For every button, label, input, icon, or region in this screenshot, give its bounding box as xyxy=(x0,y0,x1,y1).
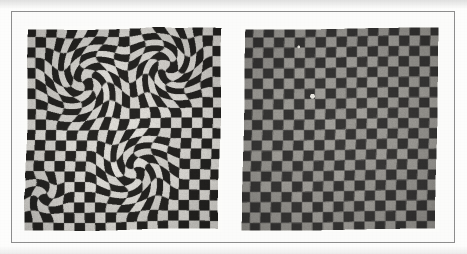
left-checkerboard-image xyxy=(24,26,222,232)
figure-page xyxy=(0,0,467,254)
figure-frame-border xyxy=(11,11,455,243)
corrected-checkerboard-canvas xyxy=(241,26,439,232)
right-checkerboard-image xyxy=(241,26,439,232)
distorted-checkerboard-canvas xyxy=(24,26,222,232)
